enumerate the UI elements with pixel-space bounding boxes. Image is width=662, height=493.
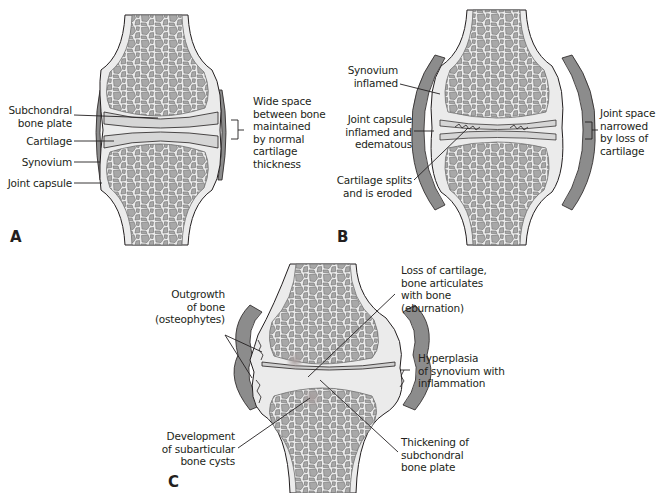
label-cartilage-splits-b: Cartilage splits and is eroded — [330, 174, 412, 199]
label-synovium-inflamed-b: Synovium inflamed — [328, 64, 398, 89]
label-subchondral-bone-plate-a: Subchondral bone plate — [6, 104, 72, 129]
label-osteophytes-c: Outgrowth of bone (osteophytes) — [140, 288, 225, 326]
label-cartilage-a: Cartilage — [6, 135, 72, 148]
panel-a-normal-joint — [74, 15, 244, 245]
label-hyperplasia-synovium-c: Hyperplasia of synovium with inflammatio… — [418, 352, 505, 390]
label-eburnation-c: Loss of cartilage, bone articulates with… — [401, 264, 487, 314]
label-joint-capsule-inflamed-b: Joint capsule inflamed and edematous — [330, 113, 412, 151]
panel-letter-b: B — [337, 228, 348, 246]
osteoarthritis-figure: Subchondral bone plate Cartilage Synoviu… — [0, 0, 662, 493]
panel-letter-c: C — [168, 473, 179, 491]
panel-letter-a: A — [10, 228, 22, 246]
label-joint-space-narrowed-b: Joint space narrowed by loss of cartilag… — [600, 107, 655, 157]
label-joint-capsule-a: Joint capsule — [6, 177, 72, 190]
panel-b-early-oa — [400, 10, 598, 245]
label-synovium-a: Synovium — [6, 156, 72, 169]
label-subarticular-cysts-c: Development of subarticular bone cysts — [140, 430, 235, 468]
label-wide-space-a: Wide space between bone maintained by no… — [253, 95, 326, 170]
bone-cyst-lower — [302, 388, 322, 408]
bone-cyst-upper — [286, 352, 304, 370]
label-thickening-subchondral-c: Thickening of subchondral bone plate — [401, 436, 469, 474]
